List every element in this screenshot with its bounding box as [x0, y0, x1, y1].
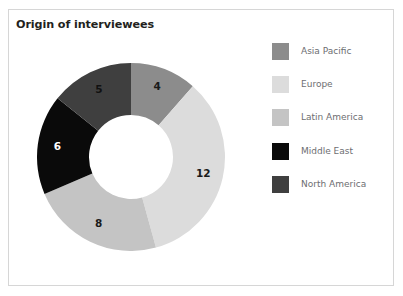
donut-chart: 412865 [37, 63, 225, 251]
slice-value-europe: 12 [196, 167, 211, 179]
legend-label-latin-america: Latin America [301, 113, 363, 122]
legend-item[interactable]: Asia Pacific [272, 41, 392, 61]
slice-value-north-america: 5 [95, 83, 102, 95]
slice-value-latin-america: 8 [95, 217, 102, 229]
legend-label-asia-pacific: Asia Pacific [301, 47, 351, 56]
legend-item[interactable]: Latin America [272, 108, 392, 128]
legend-item[interactable]: Europe [272, 74, 392, 94]
legend-item[interactable]: Middle East [272, 141, 392, 161]
slice-value-middle-east: 6 [54, 140, 61, 152]
donut-slices [37, 63, 225, 251]
legend-swatch-middle-east [272, 143, 289, 160]
chart-title: Origin of interviewees [16, 18, 154, 31]
legend-label-middle-east: Middle East [301, 147, 353, 156]
slice-value-asia-pacific: 4 [153, 80, 160, 92]
legend-label-europe: Europe [301, 80, 333, 89]
legend-swatch-latin-america [272, 109, 289, 126]
legend-label-north-america: North America [301, 180, 366, 189]
legend-item[interactable]: North America [272, 175, 392, 195]
legend-swatch-north-america [272, 176, 289, 193]
donut-chart-svg: 412865 [37, 63, 225, 251]
chart-figure: Origin of interviewees 412865 Asia Pacif… [0, 0, 403, 296]
legend-swatch-europe [272, 76, 289, 93]
legend-swatch-asia-pacific [272, 43, 289, 60]
chart-legend: Asia Pacific Europe Latin America Middle… [272, 41, 392, 208]
